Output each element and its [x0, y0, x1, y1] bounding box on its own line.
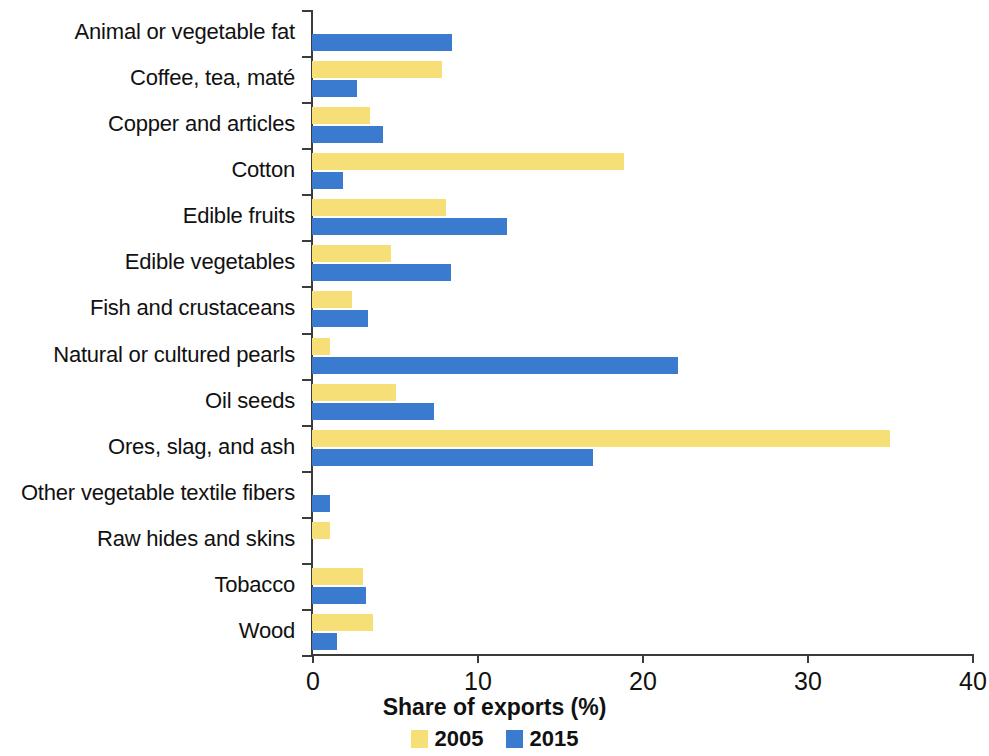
- chart-legend: 20052015: [0, 728, 989, 750]
- category-label: Animal or vegetable fat: [0, 19, 295, 45]
- bar-2015: [312, 310, 368, 327]
- bar-2015: [312, 633, 337, 650]
- category-label: Edible vegetables: [0, 249, 295, 275]
- x-axis-tick-label: 40: [943, 666, 989, 696]
- bar-2005: [312, 430, 890, 447]
- x-axis-tick-label: 0: [283, 666, 343, 696]
- bar-2015: [312, 495, 330, 512]
- bar-2005: [312, 568, 363, 585]
- y-axis-tick: [302, 56, 312, 58]
- bar-2005: [312, 153, 624, 170]
- legend-label: 2005: [435, 728, 484, 750]
- y-axis-tick: [302, 148, 312, 150]
- category-label: Tobacco: [0, 572, 295, 598]
- x-axis-tick: [807, 654, 809, 663]
- bar-2005: [312, 291, 352, 308]
- bar-2015: [312, 403, 434, 420]
- bar-2005: [312, 245, 391, 262]
- y-axis-tick: [302, 517, 312, 519]
- category-label: Natural or cultured pearls: [0, 342, 295, 368]
- y-axis-tick: [302, 471, 312, 473]
- category-label: Wood: [0, 618, 295, 644]
- y-axis-tick: [302, 563, 312, 565]
- y-axis-tick: [302, 333, 312, 335]
- bar-2015: [312, 449, 593, 466]
- y-axis-tick: [302, 609, 312, 611]
- bar-2015: [312, 264, 451, 281]
- bar-2015: [312, 218, 507, 235]
- bar-2015: [312, 126, 383, 143]
- bar-2005: [312, 338, 330, 355]
- bar-2005: [312, 61, 442, 78]
- bar-2005: [312, 614, 373, 631]
- bar-2015: [312, 357, 678, 374]
- category-label: Ores, slag, and ash: [0, 434, 295, 460]
- x-axis-tick: [312, 654, 314, 663]
- category-label: Coffee, tea, maté: [0, 65, 295, 91]
- y-axis-tick: [302, 10, 312, 12]
- bar-2005: [312, 384, 396, 401]
- bar-2005: [312, 522, 330, 539]
- x-axis-tick: [972, 654, 974, 663]
- x-axis-title: Share of exports (%): [0, 694, 989, 721]
- category-label: Other vegetable textile fibers: [0, 480, 295, 506]
- y-axis-tick: [302, 194, 312, 196]
- y-axis-tick: [302, 425, 312, 427]
- category-label: Edible fruits: [0, 203, 295, 229]
- bar-2005: [312, 107, 370, 124]
- legend-item-2005: 2005: [411, 728, 484, 750]
- bar-2015: [312, 80, 357, 97]
- legend-item-2015: 2015: [506, 728, 579, 750]
- x-axis-tick-label: 30: [778, 666, 838, 696]
- x-axis-tick: [642, 654, 644, 663]
- category-label: Raw hides and skins: [0, 526, 295, 552]
- legend-label: 2015: [530, 728, 579, 750]
- legend-swatch-icon: [411, 730, 428, 748]
- bar-2015: [312, 587, 366, 604]
- y-axis-tick: [302, 655, 312, 657]
- category-label: Cotton: [0, 157, 295, 183]
- x-axis-tick-label: 10: [448, 666, 508, 696]
- category-label: Oil seeds: [0, 388, 295, 414]
- bar-2015: [312, 172, 343, 189]
- bar-2005: [312, 199, 446, 216]
- bar-2015: [312, 34, 452, 51]
- legend-swatch-icon: [506, 730, 523, 748]
- category-label: Copper and articles: [0, 111, 295, 137]
- y-axis-tick: [302, 102, 312, 104]
- y-axis-tick: [302, 379, 312, 381]
- x-axis-tick-label: 20: [613, 666, 673, 696]
- category-label: Fish and crustaceans: [0, 295, 295, 321]
- y-axis-tick: [302, 286, 312, 288]
- horizontal-bar-chart: Animal or vegetable fatCoffee, tea, maté…: [0, 0, 989, 756]
- x-axis-tick: [477, 654, 479, 663]
- y-axis-tick: [302, 240, 312, 242]
